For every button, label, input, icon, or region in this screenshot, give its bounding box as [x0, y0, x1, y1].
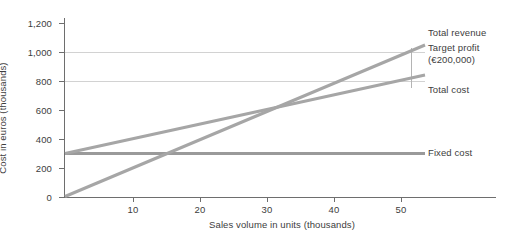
- x-tick-label-10: 10: [128, 204, 139, 215]
- y-tick-label-1000: 1,000: [10, 47, 52, 58]
- y-axis-title: Cost in euros (thousands): [0, 38, 8, 198]
- y-tick-label-1200: 1,200: [10, 18, 52, 29]
- y-tick-label-800: 800: [10, 76, 52, 87]
- series-label-total-cost: Total cost: [428, 84, 469, 96]
- series-total-revenue: [65, 45, 425, 197]
- series-total-cost: [65, 75, 425, 154]
- x-tick-label-40: 40: [329, 204, 340, 215]
- target-profit-line-2: (€200,000): [428, 54, 479, 66]
- y-tick-label-400: 400: [10, 134, 52, 145]
- y-tick-label-200: 200: [10, 163, 52, 174]
- y-tick-label-600: 600: [10, 105, 52, 116]
- x-tick-label-20: 20: [195, 204, 206, 215]
- y-axis-ticks: [59, 24, 64, 198]
- x-tick-label-50: 50: [396, 204, 407, 215]
- break-even-chart: 1,200 1,000 800 600 400 200 0 10 20 30 4…: [0, 0, 509, 240]
- series-label-fixed-cost: Fixed cost: [428, 147, 472, 159]
- series-label-total-revenue: Total revenue: [428, 27, 486, 39]
- target-profit-line-1: Target profit: [428, 42, 479, 54]
- x-tick-label-30: 30: [262, 204, 273, 215]
- x-axis-title: Sales volume in units (thousands): [209, 219, 355, 230]
- annotation-label-target-profit: Target profit (€200,000): [428, 42, 479, 65]
- y-tick-label-0: 0: [10, 192, 52, 203]
- data-series: [65, 45, 425, 197]
